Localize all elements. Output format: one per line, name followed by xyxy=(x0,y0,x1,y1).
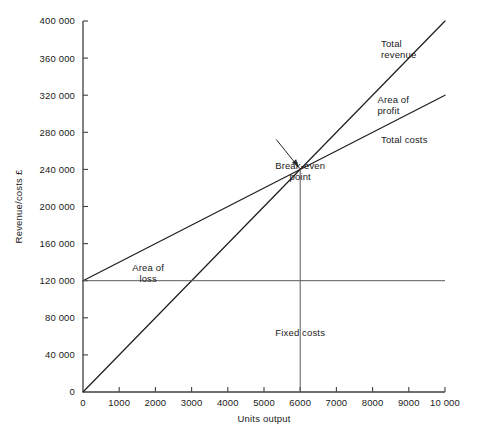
series-line-total-revenue xyxy=(83,21,445,392)
x-axis-ticks xyxy=(119,387,445,392)
chart-canvas: 040 00080 000120 000160 000200 000240 00… xyxy=(0,0,480,434)
y-tick-label-280000: 280 000 xyxy=(40,127,75,138)
y-tick-label-320000: 320 000 xyxy=(40,90,75,101)
y-tick-label-40000: 40 000 xyxy=(45,349,75,360)
annotation-fixed-costs: Fixed costs xyxy=(275,327,325,338)
y-axis-tick-labels: 040 00080 000120 000160 000200 000240 00… xyxy=(40,15,75,397)
annotation-break-even-point: Break-evenpoint xyxy=(275,160,325,182)
annotation-total-revenue: Totalrevenue xyxy=(381,38,416,60)
annotation-area-of-profit: Area ofprofit xyxy=(377,94,409,116)
y-tick-label-0: 0 xyxy=(70,386,75,397)
x-tick-label-4000: 4000 xyxy=(217,397,239,408)
y-tick-label-360000: 360 000 xyxy=(40,53,75,64)
x-tick-label-0: 0 xyxy=(80,397,85,408)
series-line-total-costs xyxy=(83,95,445,281)
x-tick-label-8000: 8000 xyxy=(362,397,384,408)
x-tick-label-2000: 2000 xyxy=(145,397,167,408)
y-tick-label-200000: 200 000 xyxy=(40,201,75,212)
x-tick-label-9000: 9000 xyxy=(398,397,420,408)
y-tick-label-160000: 160 000 xyxy=(40,238,75,249)
chart-annotations: Break-evenpointTotalrevenueArea ofprofit… xyxy=(132,38,427,338)
annotation-total-costs: Total costs xyxy=(381,134,428,145)
y-tick-label-120000: 120 000 xyxy=(40,275,75,286)
x-tick-label-7000: 7000 xyxy=(326,397,348,408)
x-axis-title: Units output xyxy=(237,413,290,424)
x-axis-tick-labels: 010002000300040005000600070008000900010 … xyxy=(80,397,460,408)
data-series-group xyxy=(83,21,445,392)
break-even-chart: 040 00080 000120 000160 000200 000240 00… xyxy=(0,0,480,434)
y-axis-ticks xyxy=(83,21,88,355)
y-tick-label-240000: 240 000 xyxy=(40,164,75,175)
x-tick-label-3000: 3000 xyxy=(181,397,203,408)
x-tick-label-6000: 6000 xyxy=(289,397,311,408)
y-tick-label-400000: 400 000 xyxy=(40,15,75,26)
y-tick-label-80000: 80 000 xyxy=(45,312,75,323)
x-tick-label-1000: 1000 xyxy=(108,397,130,408)
x-tick-label-10000: 10 000 xyxy=(430,397,460,408)
y-axis-title: Revenue/costs £ xyxy=(13,169,24,243)
x-tick-label-5000: 5000 xyxy=(253,397,275,408)
